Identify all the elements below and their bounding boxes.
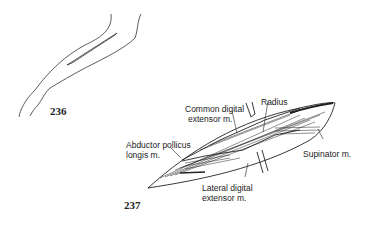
- figure-number-237: 237: [124, 199, 141, 211]
- label-line: extensor m.: [202, 193, 253, 203]
- label-radius: Radius: [261, 97, 287, 107]
- label-line: Lateral digital: [202, 183, 253, 193]
- label-abductor-pollicus: Abductor pollicus longis m.: [126, 140, 191, 160]
- label-supinator: Supinator m.: [303, 149, 351, 159]
- label-line: longis m.: [126, 150, 191, 160]
- label-line: Abductor pollicus: [126, 140, 191, 150]
- label-common-digital-extensor: Common digital extensor m.: [185, 104, 244, 124]
- label-line: Common digital: [185, 104, 244, 114]
- label-lateral-digital-extensor: Lateral digital extensor m.: [202, 183, 253, 203]
- label-line: extensor m.: [185, 114, 244, 124]
- figure-number-236: 236: [50, 105, 67, 117]
